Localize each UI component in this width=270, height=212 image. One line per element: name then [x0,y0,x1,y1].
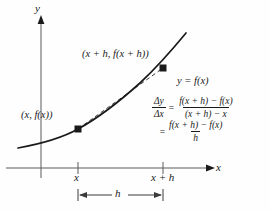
y-axis-label: y [35,3,40,14]
h-measure-label: h [115,188,121,199]
simplified-numerator: f(x + h) − f(x) [167,120,224,131]
x-axis-label: x [216,162,221,173]
equation-line-1: Δy Δx = f(x + h) − f(x) (x + h) − x [152,96,235,119]
lower-point-label: (x, f(x)) [21,110,52,121]
difference-quotient-expanded: f(x + h) − f(x) (x + h) − x [177,96,234,119]
equation-line-2: = f(x + h) − f(x) h [152,120,235,143]
equals-sign-1: = [166,103,177,113]
expanded-numerator: f(x + h) − f(x) [177,96,234,107]
difference-quotient-equations: Δy Δx = f(x + h) − f(x) (x + h) − x = f(… [152,96,235,145]
delta-y-numerator: Δy [152,96,166,107]
x-tick-label-x: x [74,172,79,183]
equals-sign-2: = [152,127,167,137]
difference-quotient-figure: y x x x + h h (x + h, f(x + h)) (x, f(x)… [0,0,270,212]
expanded-denominator: (x + h) − x [183,107,229,119]
delta-x-denominator: Δx [152,107,166,119]
difference-quotient-simplified: f(x + h) − f(x) h [167,120,224,143]
delta-y-over-delta-x: Δy Δx [152,96,166,119]
secant-line [78,68,163,129]
x-tick-label-x-plus-h: x + h [151,172,174,183]
y-axis [38,15,45,178]
curve-label: y = f(x) [177,76,209,87]
upper-point-label: (x + h, f(x + h)) [82,49,149,60]
simplified-denominator: h [191,131,200,143]
x-axis [6,164,215,171]
